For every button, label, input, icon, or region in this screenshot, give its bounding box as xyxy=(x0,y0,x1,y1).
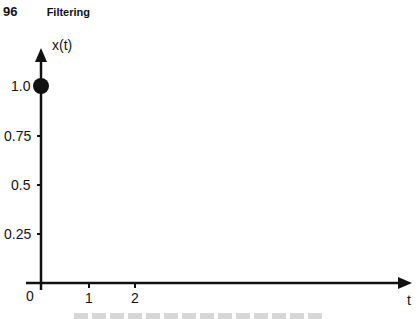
x-axis-arrow-icon xyxy=(398,277,412,289)
y-tick-075: 0.75 xyxy=(4,128,31,144)
impulse-point xyxy=(33,78,49,94)
figure-caption-truncated xyxy=(74,313,324,319)
y-axis-arrow-icon xyxy=(35,48,47,62)
y-axis-label: x(t) xyxy=(52,37,72,53)
y-tick-05: 0.5 xyxy=(11,177,31,193)
y-tick-1: 1.0 xyxy=(11,78,31,94)
x-axis-label: t xyxy=(407,292,411,308)
y-tick-025: 0.25 xyxy=(4,226,31,242)
x-tick-2: 2 xyxy=(131,290,139,306)
x-tick-0: 0 xyxy=(26,288,34,304)
x-tick-1: 1 xyxy=(85,290,93,306)
